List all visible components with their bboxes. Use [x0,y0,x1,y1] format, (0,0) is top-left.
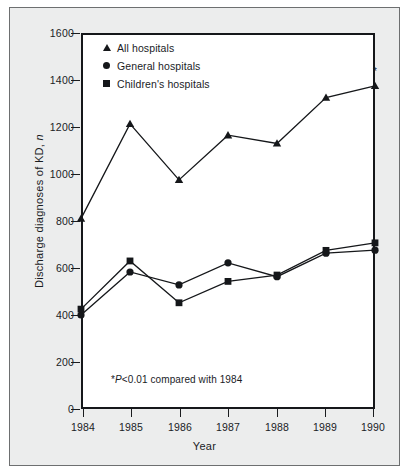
x-tick-label-1986: 1986 [168,421,192,433]
x-tick-mark-1988 [277,409,278,417]
footnote: *P<0.01 compared with 1984 [111,374,242,385]
x-tick-label-1988: 1988 [265,421,289,433]
x-tick-label-1985: 1985 [119,421,143,433]
x-tick-mark-1990 [373,409,374,417]
data-point-square-1987 [225,278,232,285]
data-point-triangle-1985 [126,120,134,127]
series-line-all-hospitals [81,86,375,219]
y-axis-title: Discharge diagnoses of KD, n [33,91,45,331]
y-tick-mark-200 [71,362,80,363]
y-tick-mark-1400 [71,80,80,81]
data-point-square-1986 [176,299,183,306]
y-tick-mark-1000 [71,174,80,175]
data-point-circle-1985 [126,268,133,275]
data-point-square-1988 [274,272,281,279]
x-tick-mark-1984 [83,409,84,417]
x-tick-mark-1986 [180,409,181,417]
x-axis-title: Year [0,440,409,452]
footnote-italic-p: P [115,374,122,385]
y-tick-mark-0 [71,409,80,410]
data-point-circle-1987 [224,259,231,266]
data-point-circle-1990 [371,247,378,254]
x-tick-mark-1989 [325,409,326,417]
data-point-square-1985 [127,258,134,265]
y-axis-title-italic-n: n [33,134,45,140]
y-tick-mark-600 [71,268,80,269]
x-tick-mark-1985 [131,409,132,417]
figure-container: 1600 1400 1200 1000 800 600 400 200 0 19… [0,0,409,475]
y-tick-mark-1200 [71,127,80,128]
x-tick-label-1987: 1987 [216,421,240,433]
data-point-square-1984 [78,306,85,313]
data-point-square-1989 [323,247,330,254]
data-point-triangle-1987 [224,131,232,138]
significance-asterisk: * [373,66,377,77]
data-point-circle-1986 [175,281,182,288]
y-axis-title-text: Discharge diagnoses of KD, [33,140,45,288]
x-tick-label-1989: 1989 [313,421,337,433]
y-tick-mark-1600 [71,33,80,34]
x-tick-mark-1987 [228,409,229,417]
x-tick-label-1984: 1984 [71,421,95,433]
data-point-square-1990 [372,239,379,246]
data-series-layer [81,33,375,409]
x-tick-label-1990: 1990 [361,421,385,433]
footnote-rest: <0.01 compared with 1984 [122,374,243,385]
